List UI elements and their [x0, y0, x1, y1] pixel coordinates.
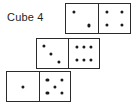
domino-pip	[106, 24, 109, 27]
domino-tile-middle	[36, 38, 100, 69]
domino-pip	[46, 78, 49, 81]
domino-face-left	[66, 4, 98, 33]
domino-face-right	[39, 72, 71, 101]
domino-tile-bottom	[6, 71, 71, 102]
domino-pip	[120, 24, 123, 27]
domino-pip	[75, 45, 78, 48]
domino-pip	[50, 53, 53, 56]
domino-pip	[46, 92, 49, 95]
figure-caption: Cube 4	[7, 11, 44, 24]
domino-tile-top	[65, 3, 131, 34]
domino-pip	[61, 78, 64, 81]
domino-face-left	[37, 39, 68, 68]
domino-pip	[75, 59, 78, 62]
domino-pip	[73, 10, 76, 13]
domino-pip	[42, 44, 45, 47]
domino-pip	[87, 24, 90, 27]
domino-pip	[82, 59, 85, 62]
domino-figure: Cube 4	[0, 0, 138, 105]
domino-face-right	[98, 4, 130, 33]
domino-pip	[53, 85, 56, 88]
domino-face-left	[7, 72, 39, 101]
domino-pip	[120, 10, 123, 13]
domino-pip	[61, 92, 64, 95]
domino-pip	[21, 85, 24, 88]
domino-pip	[58, 60, 61, 63]
domino-pip	[90, 45, 93, 48]
domino-pip	[106, 10, 109, 13]
domino-pip	[82, 45, 85, 48]
domino-pip	[90, 59, 93, 62]
domino-face-right	[68, 39, 99, 68]
